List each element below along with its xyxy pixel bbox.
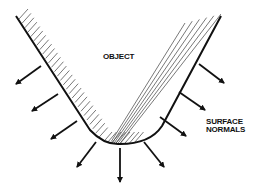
surface-normals-label: SURFACE NORMALS [206, 118, 245, 134]
surface-normal-arrow [16, 66, 41, 84]
surface-label-line2: NORMALS [206, 126, 245, 134]
object-surface-outline [16, 16, 221, 144]
object-label: OBJECT [103, 53, 134, 61]
surface-normal-arrows [16, 64, 224, 182]
surface-normals-diagram [0, 0, 264, 185]
left-wall-hatching [19, 9, 144, 146]
right-wall-hatching [111, 14, 221, 146]
surface-normal-arrow [199, 64, 224, 83]
surface-normal-arrow [51, 121, 77, 139]
surface-normal-arrow [144, 142, 164, 167]
surface-normal-arrow [32, 94, 58, 111]
surface-normal-arrow [77, 142, 96, 167]
surface-normal-arrow [179, 92, 205, 110]
surface-normal-arrow [160, 117, 186, 136]
